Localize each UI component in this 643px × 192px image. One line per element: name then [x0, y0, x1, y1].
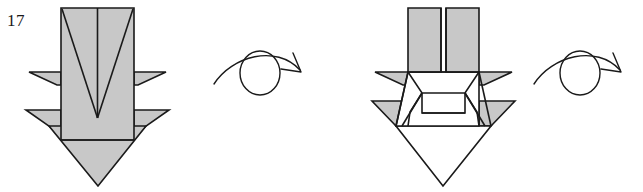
step-panel-17: 17: [0, 0, 210, 192]
wing-lower-right: [479, 101, 515, 126]
turn-over-symbol-2: [530, 0, 643, 192]
turn-over-circle: [560, 51, 600, 95]
turn-over-panel-1: [210, 0, 330, 192]
flap-upper-right: [134, 72, 166, 85]
turn-over-panel-2: [530, 0, 643, 192]
top-panel-right: [446, 8, 479, 72]
bottom-diamond-point: [396, 126, 491, 186]
flap-upper-right: [479, 72, 512, 85]
turn-over-symbol-1: [210, 0, 330, 192]
top-panel-left: [408, 8, 441, 72]
diagram-sheet: 17: [0, 0, 643, 192]
figure-18: [330, 0, 530, 192]
step-panel-18: 18: [330, 0, 530, 192]
turn-over-circle: [240, 51, 280, 95]
flap-upper-left: [29, 72, 61, 85]
flap-upper-left: [375, 72, 408, 85]
figure-17: [0, 0, 210, 192]
